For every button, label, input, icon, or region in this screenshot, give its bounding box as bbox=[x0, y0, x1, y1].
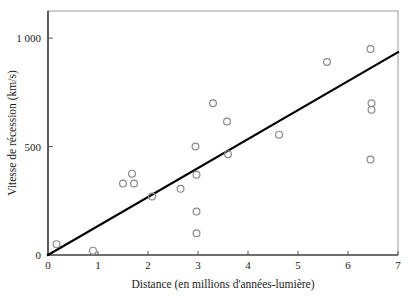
x-tick-label: 2 bbox=[145, 259, 151, 271]
plot-frame bbox=[48, 11, 398, 255]
data-point-marker bbox=[210, 100, 217, 107]
data-point-marker bbox=[367, 46, 374, 53]
data-point-marker bbox=[193, 171, 200, 178]
chart-canvas: 0123456705001 000Distance (en millions d… bbox=[0, 0, 411, 302]
data-point-marker bbox=[324, 59, 331, 66]
x-tick-label: 0 bbox=[45, 259, 51, 271]
data-point-marker bbox=[193, 208, 200, 215]
data-point-marker bbox=[192, 143, 199, 150]
data-point-marker bbox=[131, 180, 138, 187]
data-point-marker bbox=[120, 180, 127, 187]
trend-line bbox=[48, 52, 398, 255]
x-tick-label: 3 bbox=[195, 259, 201, 271]
data-point-marker bbox=[368, 106, 375, 113]
data-point-marker bbox=[177, 185, 184, 192]
x-axis-title: Distance (en millions d'années-lumière) bbox=[131, 278, 314, 291]
data-point-marker bbox=[193, 230, 200, 237]
y-tick-label: 500 bbox=[25, 141, 42, 153]
x-tick-label: 6 bbox=[345, 259, 351, 271]
x-tick-label: 1 bbox=[95, 259, 101, 271]
plot-axes bbox=[48, 11, 398, 255]
data-point-marker bbox=[368, 100, 375, 107]
x-tick-label: 4 bbox=[245, 259, 251, 271]
x-tick-label: 7 bbox=[395, 259, 401, 271]
y-tick-label: 0 bbox=[36, 249, 42, 261]
hubble-diagram-figure: 0123456705001 000Distance (en millions d… bbox=[0, 0, 411, 302]
y-tick-label: 1 000 bbox=[16, 32, 41, 44]
data-point-marker bbox=[90, 247, 97, 254]
data-point-marker bbox=[224, 118, 231, 125]
data-point-marker bbox=[129, 170, 136, 177]
data-point-marker bbox=[53, 241, 60, 248]
x-tick-label: 5 bbox=[295, 259, 301, 271]
data-point-marker bbox=[276, 131, 283, 138]
y-axis-title: Vitesse de récession (km/s) bbox=[6, 70, 19, 196]
data-point-marker bbox=[367, 156, 374, 163]
